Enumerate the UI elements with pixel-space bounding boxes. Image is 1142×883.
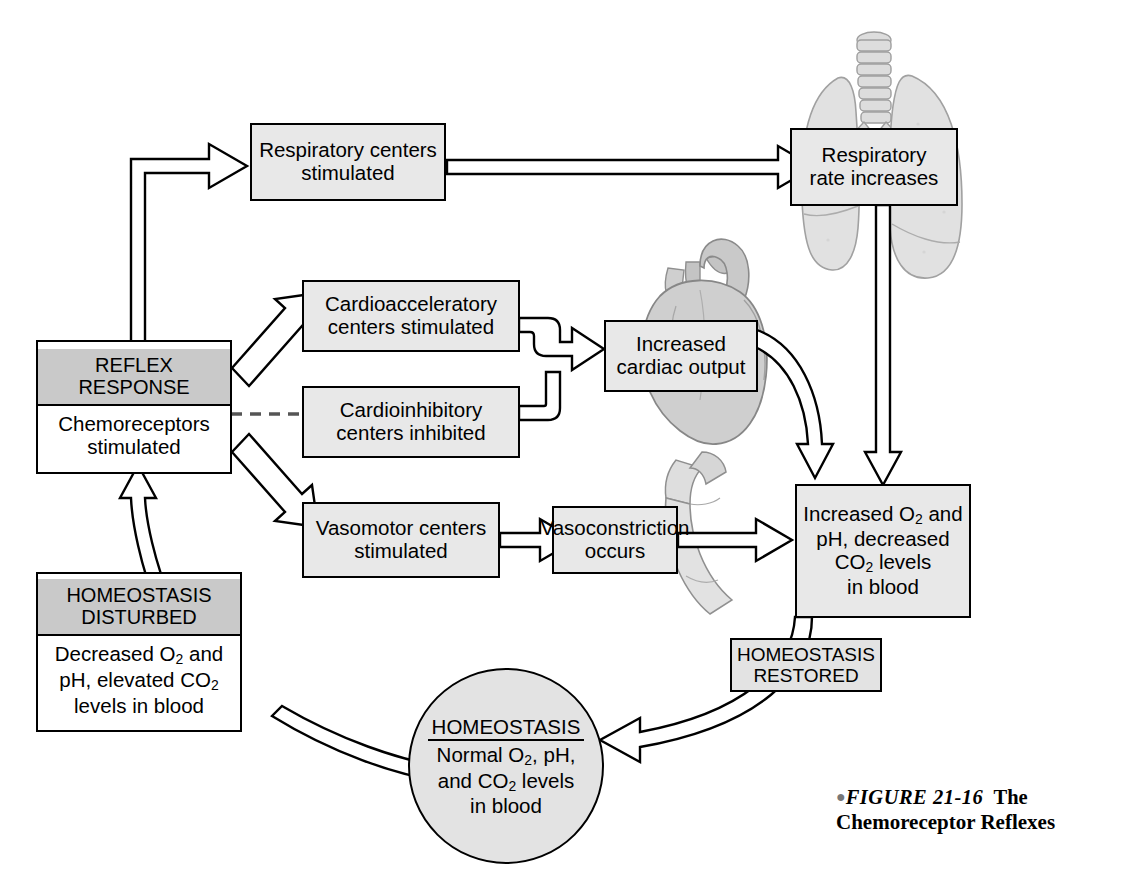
homeostasis-restored-line1: HOMEOSTASIS [737,644,875,665]
homeostasis-circle-line2: and CO2 levels [438,769,575,794]
homeostasis-disturbed-header-line1: HOMEOSTASIS [38,584,240,606]
homeostasis-circle-line3: in blood [470,794,542,818]
figure-canvas: Respiratory centers stimulated Respirato… [0,0,1142,883]
cardioacceleratory-line2: centers stimulated [328,316,494,339]
reflex-response-header-line2: RESPONSE [38,376,230,398]
homeostasis-disturbed-body: Decreased O2 and pH, elevated CO2 levels… [38,636,240,724]
homeostasis-disturbed-header: HOMEOSTASIS DISTURBED [38,579,240,636]
connector-cardioinhib-to-output [519,372,560,420]
increased-levels-line1: Increased O2 and [803,503,962,528]
vasomotor-line1: Vasomotor centers [316,517,487,540]
cardiac-output-line1: Increased [636,333,726,356]
increased-levels-line4: in blood [847,576,919,599]
figure-number: FIGURE 21-16 [846,786,984,808]
figure-caption: ●FIGURE 21-16 The Chemoreceptor Reflexes [836,786,1136,835]
node-reflex-response[interactable]: REFLEX RESPONSE Chemoreceptors stimulate… [36,340,232,474]
homeostasis-circle-title: HOMEOSTASIS [428,715,585,742]
homeostasis-disturbed-body-line2: pH, elevated CO2 [38,668,240,694]
increased-levels-line2: pH, decreased [816,528,949,551]
respiratory-centers-line2: stimulated [301,162,394,185]
node-increased-levels[interactable]: Increased O2 and pH, decreased CO2 level… [795,484,971,618]
reflex-response-body: Chemoreceptors stimulated [38,406,230,466]
figure-caption-line2: Chemoreceptor Reflexes [836,810,1136,835]
homeostasis-disturbed-body-line1: Decreased O2 and [38,642,240,668]
reflex-response-header: REFLEX RESPONSE [38,349,230,406]
reflex-response-header-line1: REFLEX [38,354,230,376]
node-homeostasis-circle[interactable]: HOMEOSTASIS Normal O2, pH, and CO2 level… [408,668,604,864]
node-homeostasis-disturbed[interactable]: HOMEOSTASIS DISTURBED Decreased O2 and p… [36,572,242,732]
reflex-response-body-line1: Chemoreceptors [38,412,230,435]
node-respiratory-rate-increases[interactable]: Respiratory rate increases [790,128,958,206]
cardioinhibitory-line2: centers inhibited [336,422,485,445]
bullet-icon: ● [836,788,846,805]
node-increased-cardiac-output[interactable]: Increased cardiac output [604,320,758,392]
node-vasomotor-centers[interactable]: Vasomotor centers stimulated [302,502,500,578]
homeostasis-restored-line2: RESTORED [753,665,858,686]
connector-output-to-levels [753,330,833,478]
connector-reflex-to-respiratory [131,144,247,342]
vasoconstriction-line2: occurs [585,540,645,563]
connector-cardioaccel-to-output [519,318,604,370]
cardioacceleratory-line1: Cardioacceleratory [325,293,497,316]
cardiac-output-line2: cardiac output [617,356,746,379]
vasomotor-line2: stimulated [354,540,447,563]
respiratory-centers-line1: Respiratory centers [259,139,437,162]
node-respiratory-centers[interactable]: Respiratory centers stimulated [250,123,446,201]
cardioinhibitory-line1: Cardioinhibitory [340,399,482,422]
node-homeostasis-restored[interactable]: HOMEOSTASIS RESTORED [730,638,882,692]
node-cardioinhibitory-centers[interactable]: Cardioinhibitory centers inhibited [302,386,520,458]
homeostasis-circle-line1: Normal O2, pH, [437,743,576,768]
respiratory-rate-line2: rate increases [810,167,939,190]
figure-title-part1: The [993,786,1027,808]
respiratory-rate-line1: Respiratory [822,144,927,167]
connector-respiratory-to-rate [447,146,814,188]
node-cardioacceleratory-centers[interactable]: Cardioacceleratory centers stimulated [302,280,520,352]
increased-levels-line3: CO2 levels [835,551,932,576]
vasoconstriction-line1: Vasoconstriction [541,517,690,540]
homeostasis-disturbed-body-line3: levels in blood [38,694,240,717]
figure-caption-line1: ●FIGURE 21-16 The [836,786,1136,809]
reflex-response-body-line2: stimulated [38,435,230,458]
node-vasoconstriction-occurs[interactable]: Vasoconstriction occurs [552,506,678,574]
homeostasis-disturbed-header-line2: DISTURBED [38,606,240,628]
